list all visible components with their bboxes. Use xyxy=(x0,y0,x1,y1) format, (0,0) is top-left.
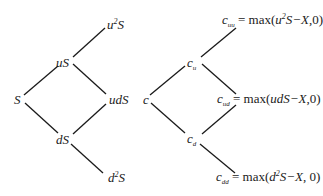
edge-c-cu xyxy=(150,66,185,95)
payoff-max-close: , 0) xyxy=(303,169,320,184)
node-cuu-subscript: uu xyxy=(228,21,235,29)
node-udS-text: udS xyxy=(109,92,129,107)
node-dS-text: dS xyxy=(56,132,69,147)
payoff-arg-suffix: S−X xyxy=(280,169,303,184)
node-S-text: S xyxy=(14,92,21,107)
node-uS-text: uS xyxy=(56,55,69,70)
edge-c-cd xyxy=(151,103,185,133)
payoff-max-open: = max( xyxy=(229,169,270,184)
edge-S-uS xyxy=(24,66,58,95)
node-dS: dS xyxy=(56,133,69,146)
node-cd-subscript: d xyxy=(193,140,197,148)
payoff-arg-suffix: S−X xyxy=(286,12,309,27)
node-cuu-payoff: cuu = max(u2S−X,0) xyxy=(222,13,323,29)
node-cud-subscript: ud xyxy=(223,100,230,108)
node-d2S-suffix: S xyxy=(119,170,126,185)
edge-cu-cuu xyxy=(201,28,236,57)
node-cud-payoff: cud = max(udS−X,0) xyxy=(217,92,321,108)
edge-dS-d2S xyxy=(71,144,103,173)
payoff-max-open: = max( xyxy=(230,91,271,106)
node-cdd-payoff: cdd = max(d2S−X, 0) xyxy=(216,170,320,186)
node-c: c xyxy=(143,93,149,106)
edge-cu-cud xyxy=(202,64,236,94)
node-c-text: c xyxy=(143,92,149,107)
node-uS: uS xyxy=(56,56,69,69)
payoff-max-open: = max( xyxy=(235,12,276,27)
payoff-max-close: ,0) xyxy=(307,91,321,106)
node-S: S xyxy=(14,93,21,106)
payoff-max-close: ,0) xyxy=(309,12,323,27)
node-cu: cu xyxy=(187,56,196,72)
node-u2S-suffix: S xyxy=(118,17,125,32)
node-d2S: d2S xyxy=(108,171,125,184)
edge-uS-udS xyxy=(73,64,106,94)
node-u2S: u2S xyxy=(107,18,124,31)
edge-uS-u2S xyxy=(73,28,105,57)
node-cd: cd xyxy=(187,132,196,148)
node-cu-subscript: u xyxy=(193,64,197,72)
edge-dS-udS xyxy=(73,104,106,134)
edge-S-dS xyxy=(25,103,58,133)
node-cdd-subscript: dd xyxy=(222,178,229,186)
node-udS: udS xyxy=(109,93,129,106)
payoff-arg: udS−X xyxy=(270,91,306,106)
edge-cd-cud xyxy=(202,105,236,134)
